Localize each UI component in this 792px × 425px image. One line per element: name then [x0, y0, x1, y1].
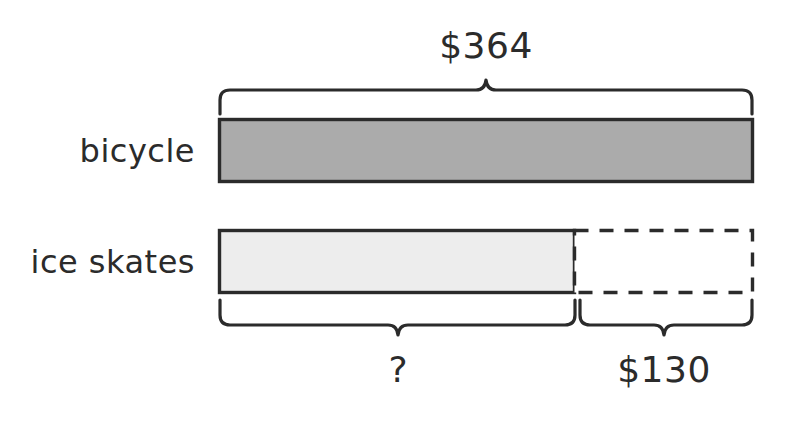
bicycle-bar-segment	[220, 120, 753, 182]
bicycle-bar-group	[220, 120, 753, 182]
top-brace-total	[220, 80, 752, 114]
top-brace-path	[220, 80, 752, 114]
bottom-brace-unknown-path	[220, 300, 575, 335]
tape-diagram-canvas: $364 bicycle ice skates ? $130	[0, 0, 792, 425]
difference-amount-label: $130	[617, 352, 711, 388]
bottom-brace-difference	[580, 300, 752, 335]
ice-skates-known-segment	[220, 231, 575, 293]
row-label-bicycle: bicycle	[80, 135, 195, 167]
total-amount-label: $364	[439, 28, 533, 64]
ice-skates-bar-group	[220, 231, 753, 293]
bottom-brace-unknown	[220, 300, 575, 335]
bottom-brace-difference-path	[580, 300, 752, 335]
ice-skates-difference-segment	[575, 231, 753, 293]
unknown-amount-label: ?	[388, 352, 407, 388]
row-label-ice-skates: ice skates	[31, 246, 196, 278]
